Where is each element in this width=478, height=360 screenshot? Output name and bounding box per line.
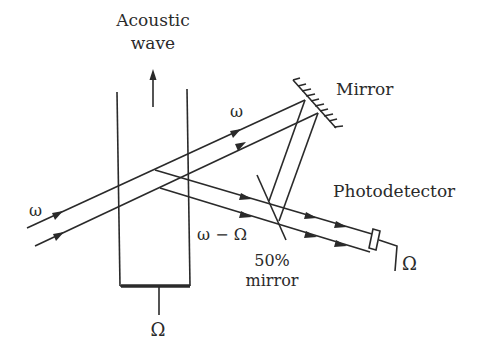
half-mirror-label-line2: mirror xyxy=(246,271,299,290)
reflected-beams xyxy=(269,100,318,221)
detector-output-label: Ω xyxy=(402,253,417,274)
shifted-frequency-label: ω − Ω xyxy=(197,225,247,244)
acoustic-cell xyxy=(117,89,190,286)
acoustic-wave-label-line2: wave xyxy=(131,33,175,53)
incident-frequency-label: ω xyxy=(29,201,42,220)
incident-beams xyxy=(27,100,318,246)
transducer xyxy=(121,286,190,315)
upper-beam-frequency-label: ω xyxy=(230,102,243,121)
photodetector xyxy=(369,229,397,271)
photodetector-label: Photodetector xyxy=(333,181,456,201)
acoustic-wave-label-line1: Acoustic xyxy=(115,10,190,30)
acousto-optic-diagram: Acoustic wave Ω ω ω xyxy=(0,0,478,360)
mirror-label: Mirror xyxy=(336,79,394,99)
acoustic-direction-arrow-icon xyxy=(150,69,157,107)
transducer-drive-label: Ω xyxy=(151,319,166,340)
half-mirror-label-line1: 50% xyxy=(254,251,290,270)
